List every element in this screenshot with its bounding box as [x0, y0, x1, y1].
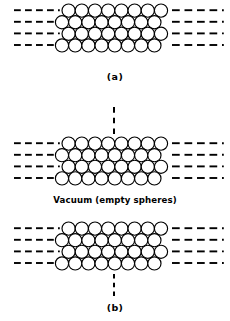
lattice-sphere [141, 4, 154, 17]
lattice-sphere [128, 27, 141, 40]
lattice-sphere [88, 160, 101, 173]
lattice-sphere [141, 160, 154, 173]
lattice-sphere [108, 149, 121, 162]
lattice-sphere [148, 39, 161, 52]
lattice-sphere [148, 234, 161, 247]
lattice-sphere [108, 234, 121, 247]
lattice-sphere [69, 172, 82, 185]
lattice-sphere [95, 257, 108, 270]
lattice-sphere [88, 222, 101, 235]
figure-canvas [0, 0, 230, 321]
lattice-sphere [115, 4, 128, 17]
figure-geometry [14, 4, 224, 296]
lattice-sphere [62, 137, 75, 150]
lattice-sphere [102, 27, 115, 40]
panel-label-b: (b) [0, 303, 230, 313]
lattice-sphere [88, 137, 101, 150]
lattice-sphere [115, 160, 128, 173]
lattice-sphere [55, 257, 68, 270]
lattice-sphere [62, 160, 75, 173]
lattice-sphere [95, 234, 108, 247]
lattice-sphere [75, 222, 88, 235]
lattice-sphere [62, 222, 75, 235]
figure-container: (a) Vacuum (empty spheres) (b) [0, 0, 230, 321]
lattice-sphere [82, 257, 95, 270]
lattice-sphere [88, 4, 101, 17]
lattice-sphere [55, 234, 68, 247]
lattice-sphere [115, 245, 128, 258]
lattice-sphere [128, 245, 141, 258]
lattice-sphere [148, 257, 161, 270]
lattice-sphere [121, 234, 134, 247]
lattice-sphere [154, 27, 167, 40]
lattice-sphere [148, 149, 161, 162]
lattice-sphere [102, 160, 115, 173]
lattice-sphere [88, 27, 101, 40]
lattice-sphere [62, 27, 75, 40]
panel-b-lower [14, 222, 224, 296]
lattice-sphere [102, 137, 115, 150]
lattice-sphere [121, 257, 134, 270]
lattice-sphere [154, 222, 167, 235]
lattice-sphere [69, 39, 82, 52]
lattice-sphere [121, 39, 134, 52]
panel-label-a: (a) [0, 72, 230, 82]
lattice-sphere [121, 149, 134, 162]
lattice-sphere [128, 137, 141, 150]
lattice-sphere [115, 137, 128, 150]
lattice-sphere [88, 245, 101, 258]
lattice-sphere [154, 137, 167, 150]
lattice-sphere [75, 160, 88, 173]
lattice-sphere [82, 39, 95, 52]
lattice-sphere [148, 172, 161, 185]
lattice-sphere [108, 16, 121, 29]
lattice-sphere [75, 27, 88, 40]
lattice-sphere [148, 16, 161, 29]
lattice-sphere [108, 39, 121, 52]
lattice-sphere [115, 222, 128, 235]
lattice-sphere [102, 4, 115, 17]
panel-b-upper [14, 107, 224, 185]
lattice-sphere [141, 222, 154, 235]
lattice-sphere [55, 16, 68, 29]
lattice-sphere [135, 172, 148, 185]
lattice-sphere [108, 257, 121, 270]
lattice-sphere [128, 160, 141, 173]
lattice-sphere [135, 16, 148, 29]
lattice-sphere [55, 149, 68, 162]
lattice-sphere [128, 4, 141, 17]
lattice-sphere [62, 4, 75, 17]
lattice-sphere [55, 39, 68, 52]
lattice-sphere [82, 16, 95, 29]
lattice-sphere [135, 234, 148, 247]
panel-a [14, 4, 224, 52]
lattice-sphere [69, 257, 82, 270]
lattice-sphere [82, 234, 95, 247]
lattice-sphere [75, 4, 88, 17]
lattice-sphere [128, 222, 141, 235]
lattice-sphere [121, 172, 134, 185]
lattice-sphere [102, 222, 115, 235]
lattice-sphere [75, 245, 88, 258]
lattice-sphere [95, 149, 108, 162]
lattice-sphere [102, 245, 115, 258]
lattice-sphere [135, 149, 148, 162]
lattice-sphere [69, 234, 82, 247]
lattice-sphere [141, 137, 154, 150]
lattice-sphere [62, 245, 75, 258]
lattice-sphere [75, 137, 88, 150]
lattice-sphere [95, 172, 108, 185]
lattice-sphere [95, 16, 108, 29]
lattice-sphere [135, 39, 148, 52]
lattice-sphere [135, 257, 148, 270]
lattice-sphere [154, 4, 167, 17]
lattice-sphere [121, 16, 134, 29]
lattice-sphere [69, 149, 82, 162]
lattice-sphere [141, 27, 154, 40]
lattice-sphere [69, 16, 82, 29]
lattice-sphere [82, 149, 95, 162]
vacuum-caption: Vacuum (empty spheres) [0, 196, 230, 205]
lattice-sphere [95, 39, 108, 52]
lattice-sphere [154, 160, 167, 173]
lattice-sphere [108, 172, 121, 185]
